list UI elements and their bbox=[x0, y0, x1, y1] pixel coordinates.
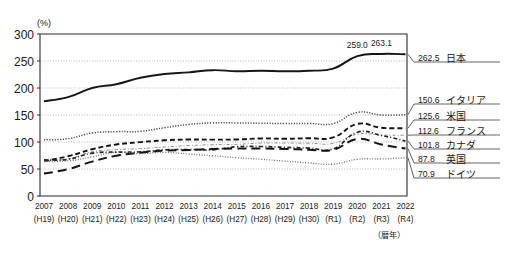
x-tick-year-2011: 2011 bbox=[132, 202, 150, 211]
x-tick-year-2007: 2007 bbox=[35, 202, 54, 211]
end-value-2: 125.6 bbox=[418, 111, 440, 121]
x-tick-era-2020: (R2) bbox=[349, 215, 365, 224]
x-tick-year-2008: 2008 bbox=[59, 202, 78, 211]
x-tick-era-2016: (H28) bbox=[251, 215, 272, 224]
peak-label-263.1: 263.1 bbox=[371, 38, 392, 48]
x-tick-year-2013: 2013 bbox=[179, 202, 198, 211]
grid-lines bbox=[40, 61, 407, 169]
x-tick-year-2009: 2009 bbox=[83, 202, 102, 211]
x-tick-era-2018: (H30) bbox=[299, 215, 320, 224]
x-tick-year-2020: 2020 bbox=[348, 202, 367, 211]
x-tick-era-2022: (R4) bbox=[398, 215, 414, 224]
y-tick-label-200: 200 bbox=[14, 82, 34, 96]
x-tick-year-2019: 2019 bbox=[324, 202, 343, 211]
end-value-0: 262.5 bbox=[418, 53, 440, 63]
y-axis-tick-labels: 050100150200250300 bbox=[14, 28, 34, 204]
x-tick-year-2021: 2021 bbox=[372, 202, 391, 211]
chart-figure: 050100150200250300 2007(H19)2008(H20)200… bbox=[0, 0, 505, 254]
y-tick-label-100: 100 bbox=[14, 136, 34, 150]
y-tick-label-0: 0 bbox=[27, 190, 34, 204]
y-tick-label-250: 250 bbox=[14, 55, 34, 69]
y-tick-label-300: 300 bbox=[14, 28, 34, 42]
series-line-3 bbox=[44, 133, 406, 161]
x-axis-note: （暦年） bbox=[373, 230, 405, 240]
end-series-name-0: 日本 bbox=[446, 52, 466, 64]
series-line-5 bbox=[44, 139, 406, 174]
x-tick-year-2018: 2018 bbox=[300, 202, 319, 211]
peak-label-259.0: 259.0 bbox=[347, 40, 368, 50]
x-tick-year-2014: 2014 bbox=[204, 202, 223, 211]
x-tick-year-2015: 2015 bbox=[228, 202, 247, 211]
end-series-name-2: 米国 bbox=[446, 110, 466, 122]
x-tick-era-2011: (H23) bbox=[130, 215, 151, 224]
x-tick-era-2010: (H22) bbox=[106, 215, 127, 224]
series-line-4 bbox=[44, 131, 406, 160]
series-end-labels: 262.5日本150.6イタリア125.6米国112.6フランス101.8カナダ… bbox=[418, 52, 486, 180]
y-axis-unit-label: (%) bbox=[37, 18, 51, 28]
x-tick-year-2022: 2022 bbox=[396, 202, 415, 211]
x-tick-year-2010: 2010 bbox=[107, 202, 126, 211]
y-tick-label-150: 150 bbox=[14, 109, 34, 123]
x-tick-era-2014: (H26) bbox=[202, 215, 223, 224]
end-value-6: 70.9 bbox=[418, 169, 435, 179]
end-series-name-4: カナダ bbox=[446, 139, 476, 151]
x-axis-tick-labels: 2007(H19)2008(H20)2009(H21)2010(H22)2011… bbox=[34, 202, 415, 224]
end-value-3: 112.6 bbox=[418, 126, 439, 136]
x-tick-year-2012: 2012 bbox=[155, 202, 174, 211]
line-chart-canvas: 050100150200250300 2007(H19)2008(H20)200… bbox=[0, 0, 505, 254]
x-tick-era-2019: (R1) bbox=[325, 215, 341, 224]
x-tick-era-2012: (H24) bbox=[154, 215, 175, 224]
x-tick-year-2017: 2017 bbox=[276, 202, 295, 211]
x-tick-era-2008: (H20) bbox=[58, 215, 79, 224]
series-lines bbox=[44, 54, 406, 174]
end-value-5: 87.8 bbox=[418, 154, 435, 164]
x-tick-era-2009: (H21) bbox=[82, 215, 103, 224]
x-tick-year-2016: 2016 bbox=[252, 202, 271, 211]
end-series-name-3: フランス bbox=[446, 126, 486, 137]
end-value-4: 101.8 bbox=[418, 140, 440, 150]
end-series-name-5: 英国 bbox=[446, 153, 466, 165]
x-tick-era-2021: (R3) bbox=[373, 215, 389, 224]
x-tick-era-2007: (H19) bbox=[34, 215, 55, 224]
series-line-6 bbox=[44, 152, 406, 164]
end-value-1: 150.6 bbox=[418, 95, 440, 105]
end-series-name-1: イタリア bbox=[446, 95, 486, 106]
x-tick-era-2015: (H27) bbox=[227, 215, 248, 224]
end-series-name-6: ドイツ bbox=[446, 169, 476, 180]
y-tick-label-50: 50 bbox=[21, 163, 35, 177]
x-tick-era-2017: (H29) bbox=[275, 215, 296, 224]
x-tick-era-2013: (H25) bbox=[178, 215, 199, 224]
peak-value-labels: 259.0263.1 bbox=[347, 38, 392, 50]
